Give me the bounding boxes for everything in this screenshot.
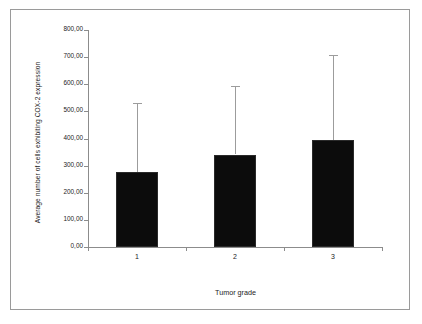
y-tick-400 xyxy=(84,139,89,140)
y-tick-label-100: 100,00 xyxy=(63,215,83,222)
y-axis-title: Average number of cells exhibiting COX-2… xyxy=(34,28,41,258)
x-tick-label-grade-1: 1 xyxy=(117,253,157,260)
plot-area: 800,00 700,00 600,00 500,00 400,00 300,0… xyxy=(88,30,383,247)
x-tick-2 xyxy=(284,247,285,251)
error-bar-line-grade-2 xyxy=(235,86,236,155)
y-tick-label-0: 0,00 xyxy=(71,242,83,249)
bar-grade-1 xyxy=(116,172,158,247)
y-tick-label-500: 500,00 xyxy=(63,106,83,113)
error-bar-cap-grade-2 xyxy=(231,86,240,87)
y-tick-label-300: 300,00 xyxy=(63,161,83,168)
y-tick-700 xyxy=(84,57,89,58)
x-tick-1 xyxy=(186,247,187,251)
y-tick-label-200: 200,00 xyxy=(63,188,83,195)
error-bar-cap-grade-3 xyxy=(329,55,338,56)
y-tick-label-400: 400,00 xyxy=(63,134,83,141)
error-bar-line-grade-1 xyxy=(137,103,138,172)
x-tick-end xyxy=(382,247,383,251)
x-axis-line xyxy=(88,247,383,248)
error-bar-cap-grade-1 xyxy=(133,103,142,104)
y-tick-100 xyxy=(84,220,89,221)
y-tick-label-700: 700,00 xyxy=(63,52,83,59)
y-tick-800 xyxy=(84,30,89,31)
y-tick-300 xyxy=(84,166,89,167)
figure: Average number of cells exhibiting COX-2… xyxy=(0,0,422,324)
bar-grade-3 xyxy=(312,140,354,247)
error-bar-line-grade-3 xyxy=(333,55,334,140)
x-tick-label-grade-2: 2 xyxy=(215,253,255,260)
y-tick-600 xyxy=(84,84,89,85)
x-axis-title: Tumor grade xyxy=(88,288,383,297)
bar-grade-2 xyxy=(214,155,256,248)
x-tick-start xyxy=(88,247,89,251)
y-tick-500 xyxy=(84,111,89,112)
y-tick-label-800: 800,00 xyxy=(63,25,83,32)
y-tick-200 xyxy=(84,193,89,194)
x-tick-label-grade-3: 3 xyxy=(313,253,353,260)
y-tick-label-600: 600,00 xyxy=(63,79,83,86)
